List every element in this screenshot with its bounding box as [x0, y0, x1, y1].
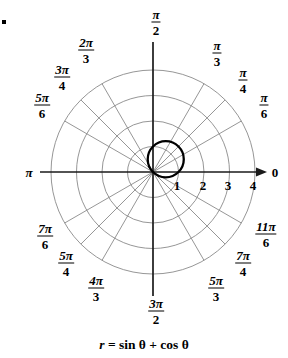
angle-pi-4-denominator: 4: [238, 81, 247, 95]
angle-4pi-3: 4π3: [88, 274, 104, 303]
angle-3pi-2: 3π2: [148, 297, 164, 326]
caption-variable: r: [99, 337, 104, 352]
caption-equals: =: [108, 337, 116, 352]
radial-tick-3: 3: [225, 178, 232, 194]
angle-7pi-6-numerator: 7π: [37, 222, 53, 237]
angle-pi-2-numerator: π: [151, 8, 160, 23]
radial-tick-1: 1: [174, 178, 181, 194]
figure-caption: r = sin θ + cos θ: [0, 337, 288, 353]
angle-5pi-3-denominator: 3: [208, 289, 224, 303]
angle-5pi-4-fraction: 5π4: [58, 249, 74, 278]
angle-5pi-4-denominator: 4: [58, 264, 74, 278]
angle-pi-6-fraction: π6: [259, 91, 268, 120]
caption-expression: sin θ + cos θ: [119, 337, 189, 352]
angle-11pi-6: 11π6: [255, 220, 276, 249]
angle-pi-2-denominator: 2: [151, 23, 160, 37]
angle-7pi-4-denominator: 4: [235, 264, 251, 278]
angle-4pi-3-numerator: 4π: [88, 274, 104, 289]
angle-3pi-2-denominator: 2: [148, 312, 164, 326]
angle-pi-3-numerator: π: [212, 39, 221, 54]
angle-7pi-4: 7π4: [235, 249, 251, 278]
angle-pi-6-numerator: π: [259, 91, 268, 106]
angle-5pi-6: 5π6: [34, 91, 50, 120]
angle-3pi-4-fraction: 3π4: [54, 63, 70, 92]
angle-2pi-3-denominator: 3: [78, 51, 94, 65]
angle-pi-3-denominator: 3: [212, 54, 221, 68]
angle-pi-6: π6: [259, 91, 268, 120]
radial-tick-2: 2: [200, 178, 207, 194]
angle-5pi-3-fraction: 5π3: [208, 274, 224, 303]
angle-5pi-6-denominator: 6: [34, 106, 50, 120]
angle-pi-text: π: [25, 165, 32, 180]
radial-tick-4: 4: [250, 178, 257, 194]
angle-5pi-3-numerator: 5π: [208, 274, 224, 289]
angle-3pi-4-denominator: 4: [54, 78, 70, 92]
angle-0-text: 0: [272, 165, 279, 180]
angle-7pi-4-fraction: 7π4: [235, 249, 251, 278]
angle-11pi-6-fraction: 11π6: [255, 220, 276, 249]
angle-3pi-2-fraction: 3π2: [148, 297, 164, 326]
angle-3pi-4: 3π4: [54, 63, 70, 92]
angle-5pi-4: 5π4: [58, 249, 74, 278]
angle-7pi-4-numerator: 7π: [235, 249, 251, 264]
angle-pi: π: [25, 164, 32, 180]
angle-11pi-6-numerator: 11π: [255, 220, 276, 235]
polar-plot-canvas: [0, 0, 288, 358]
angle-4pi-3-denominator: 3: [88, 289, 104, 303]
angle-0: 0: [272, 164, 279, 180]
angle-7pi-6-denominator: 6: [37, 237, 53, 251]
angle-2pi-3-numerator: 2π: [78, 36, 94, 51]
angle-pi-3-fraction: π3: [212, 39, 221, 68]
angle-5pi-3: 5π3: [208, 274, 224, 303]
angle-pi-2-fraction: π2: [151, 8, 160, 37]
angle-pi-2: π2: [151, 8, 160, 37]
axis-arrow-head: [256, 168, 267, 177]
angle-4pi-3-fraction: 4π3: [88, 274, 104, 303]
angle-5pi-6-fraction: 5π6: [34, 91, 50, 120]
angle-pi-4: π4: [238, 66, 247, 95]
angle-5pi-6-numerator: 5π: [34, 91, 50, 106]
angle-5pi-4-numerator: 5π: [58, 249, 74, 264]
angle-3pi-4-numerator: 3π: [54, 63, 70, 78]
angle-2pi-3: 2π3: [78, 36, 94, 65]
angle-7pi-6: 7π6: [37, 222, 53, 251]
angle-pi-4-numerator: π: [238, 66, 247, 81]
angle-2pi-3-fraction: 2π3: [78, 36, 94, 65]
angle-pi-3: π3: [212, 39, 221, 68]
angle-pi-6-denominator: 6: [259, 106, 268, 120]
angle-11pi-6-denominator: 6: [255, 235, 276, 249]
angle-pi-4-fraction: π4: [238, 66, 247, 95]
polar-chart-figure: 0π6π4π3π22π33π45π6π7π65π44π33π25π37π411π…: [0, 0, 288, 358]
angle-7pi-6-fraction: 7π6: [37, 222, 53, 251]
angle-3pi-2-numerator: 3π: [148, 297, 164, 312]
